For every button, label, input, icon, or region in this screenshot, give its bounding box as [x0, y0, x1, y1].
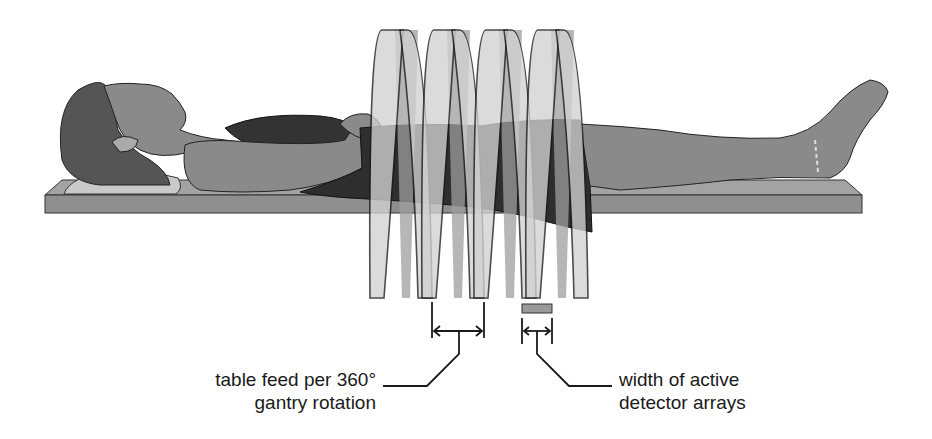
- x-ray-helix: [370, 30, 588, 298]
- detector-width-label-line1: width of active: [619, 368, 746, 391]
- table-feed-dimension: [383, 302, 484, 386]
- detector-width-label-line2: detector arrays: [619, 391, 746, 414]
- patient-legs: [580, 80, 888, 190]
- helical-ct-diagram: table feed per 360° gantry rotation widt…: [0, 0, 932, 439]
- detector-array-block: [522, 304, 552, 313]
- table-feed-label: table feed per 360° gantry rotation: [215, 368, 376, 414]
- helix-loop-4: [526, 30, 588, 298]
- table-feed-label-line2: gantry rotation: [215, 391, 376, 414]
- table-feed-label-line1: table feed per 360°: [215, 368, 376, 391]
- diagram-illustration: [0, 0, 932, 439]
- detector-width-label: width of active detector arrays: [619, 368, 746, 414]
- detector-width-dimension: [522, 318, 612, 386]
